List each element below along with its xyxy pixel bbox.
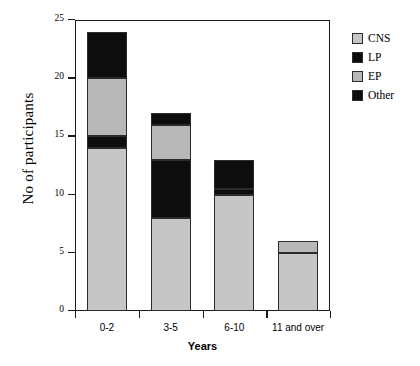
x-tick-label: 3-5 <box>163 322 177 333</box>
legend-swatch-icon <box>352 90 363 101</box>
y-tick-mark <box>68 135 75 136</box>
y-tick-label: 0 <box>42 304 64 314</box>
legend-swatch-icon <box>352 71 363 82</box>
bar-segment[interactable] <box>87 136 127 148</box>
bar-group[interactable] <box>278 20 318 311</box>
bar-segment[interactable] <box>151 125 191 160</box>
bar-segment[interactable] <box>214 160 254 189</box>
bar-segment[interactable] <box>214 189 254 195</box>
legend-item-ep[interactable]: EP <box>352 67 418 86</box>
bar-segment[interactable] <box>278 241 318 253</box>
legend-label: Other <box>368 90 394 102</box>
legend-item-lp[interactable]: LP <box>352 48 418 67</box>
bar-segment[interactable] <box>151 160 191 218</box>
legend-item-cns[interactable]: CNS <box>352 29 418 48</box>
y-tick-mark <box>68 252 75 253</box>
y-tick-mark <box>68 77 75 78</box>
legend-label: EP <box>368 71 381 83</box>
y-tick-mark <box>68 310 75 311</box>
y-tick-label: 25 <box>42 13 64 23</box>
x-tick-mark <box>75 311 76 318</box>
legend-swatch-icon <box>352 52 363 63</box>
bar-segment[interactable] <box>87 32 127 79</box>
x-tick-mark <box>139 311 140 318</box>
bar-segment[interactable] <box>87 78 127 136</box>
x-tick-label: 11 and over <box>272 322 324 333</box>
plot-area <box>75 20 330 311</box>
y-tick-label: 5 <box>42 246 64 256</box>
x-axis-title: Years <box>75 340 330 352</box>
bar-group[interactable] <box>214 20 254 311</box>
legend-item-other[interactable]: Other <box>352 86 418 105</box>
bar-group[interactable] <box>151 20 191 311</box>
bar-segment[interactable] <box>278 253 318 311</box>
y-tick-mark <box>68 19 75 20</box>
legend-swatch-icon <box>352 33 363 44</box>
bar-segment[interactable] <box>87 148 127 311</box>
bar-segment[interactable] <box>151 113 191 125</box>
bar-segment[interactable] <box>214 195 254 311</box>
x-tick-mark <box>266 311 267 318</box>
stacked-bar-chart: No of participants 0510152025 0-23-56-10… <box>0 0 420 366</box>
legend-label: CNS <box>368 33 390 45</box>
x-tick-mark <box>330 311 331 318</box>
legend-label: LP <box>368 52 381 64</box>
chart-legend: CNSLPEPOther <box>352 29 418 105</box>
bar-group[interactable] <box>87 20 127 311</box>
x-tick-label: 0-2 <box>100 322 114 333</box>
bar-segment[interactable] <box>151 218 191 311</box>
y-tick-label: 15 <box>42 129 64 139</box>
x-tick-label: 6-10 <box>224 322 244 333</box>
y-tick-label: 20 <box>42 71 64 81</box>
x-tick-mark <box>203 311 204 318</box>
y-tick-label: 10 <box>42 188 64 198</box>
y-axis-title: No of participants <box>20 39 37 259</box>
y-tick-mark <box>68 194 75 195</box>
